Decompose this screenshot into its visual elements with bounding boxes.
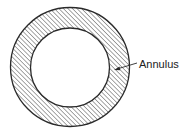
annulus-diagram: Annulus [0,0,184,133]
annulus-label: Annulus [139,58,179,70]
